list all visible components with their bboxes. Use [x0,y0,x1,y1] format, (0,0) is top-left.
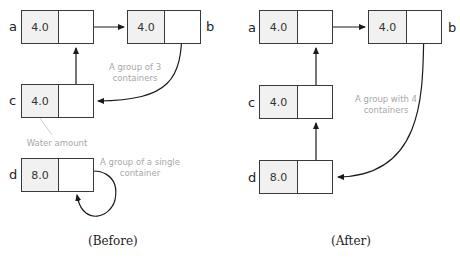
caption-after: (After) [331,234,371,248]
caption-before: (Before) [88,234,138,248]
water-value: 8.0 [260,161,298,193]
note-single-group: A group of a singlecontainer [100,157,180,178]
container-b-before: 4.0 [127,10,201,44]
pointer-cell [298,161,332,193]
water-value: 4.0 [22,11,59,43]
pointer-cell [59,85,93,117]
note-water-amount: Water amount [22,138,92,149]
container-c-after: 4.0 [259,85,333,119]
label-c-before: c [9,94,16,107]
water-value: 4.0 [260,86,298,118]
pointer-cell [298,11,332,43]
water-value: 4.0 [22,85,59,117]
container-d-after: 8.0 [259,160,333,194]
pointer-cell [165,11,200,43]
water-value: 4.0 [128,11,165,43]
label-a-after: a [248,21,256,34]
container-a-after: 4.0 [259,10,333,44]
label-b-before: b [206,20,214,33]
label-d-before: d [9,168,17,181]
water-value: 8.0 [22,159,59,191]
water-pointer-line [40,118,52,135]
container-a-before: 4.0 [21,10,94,44]
label-d-after: d [248,171,256,184]
pointer-cell [298,86,332,118]
label-c-after: c [248,96,255,109]
water-value: 4.0 [260,11,298,43]
water-value: 4.0 [369,11,407,43]
pointer-cell [407,11,441,43]
pointer-cell [59,159,93,191]
pointer-cell [59,11,93,43]
note-group-of-3: A group of 3containers [100,62,170,83]
label-b-after: b [448,21,456,34]
container-c-before: 4.0 [21,84,94,118]
label-a-before: a [9,20,17,33]
note-group-of-4: A group with 4containers [350,94,422,115]
container-b-after: 4.0 [368,10,442,44]
container-d-before: 8.0 [21,158,94,192]
